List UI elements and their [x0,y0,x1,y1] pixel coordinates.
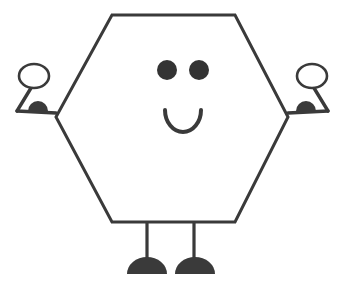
left-forearm-line [17,111,56,113]
character-illustration [0,0,345,283]
right-forearm-line [288,111,328,113]
right-eye-icon [189,60,209,80]
right-hand-oval-icon [297,64,327,88]
left-hand-oval-icon [19,64,49,88]
drawing-canvas [0,0,345,283]
left-eye-icon [157,60,177,80]
